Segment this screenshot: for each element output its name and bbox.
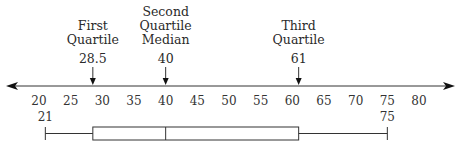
down-arrow-icon	[163, 78, 169, 85]
annotation-label-line: Third	[281, 18, 315, 33]
axis-tick-label: 70	[348, 94, 363, 108]
annotation-median: SecondQuartileMedian40	[140, 4, 192, 85]
axis-tick-label: 65	[316, 94, 331, 108]
axis-tick-label: 45	[190, 94, 205, 108]
axis-tick-labels: 20253035404550556065707580	[31, 94, 426, 108]
axis-tick-label: 25	[63, 94, 78, 108]
annotation-value-label: 40	[158, 51, 174, 66]
annotation-value-label: 61	[291, 51, 307, 66]
down-arrow-icon	[90, 78, 96, 85]
annotation-label-line: First	[78, 18, 108, 33]
number-line-axis	[6, 82, 455, 90]
axis-tick-label: 35	[126, 94, 141, 108]
axis-tick-label: 55	[253, 94, 268, 108]
down-arrow-icon	[296, 78, 302, 85]
box-plot-chart: 20253035404550556065707580 FirstQuartile…	[0, 0, 460, 146]
axis-tick-label: 40	[158, 94, 173, 108]
axis-tick-label: 80	[411, 94, 426, 108]
axis-tick-label: 75	[380, 94, 395, 108]
axis-tick-label: 20	[31, 94, 46, 108]
annotation-label-line: Quartile	[273, 32, 325, 47]
annotation-q3: ThirdQuartile61	[273, 18, 325, 85]
annotation-value-label: 28.5	[79, 51, 107, 66]
annotation-label-line: Quartile	[140, 18, 192, 33]
annotation-label-line: Quartile	[67, 32, 119, 47]
axis-tick-label: 50	[221, 94, 236, 108]
box-and-whisker: 2175	[38, 110, 395, 140]
axis-tick-label: 30	[95, 94, 110, 108]
iqr-box	[93, 127, 299, 140]
annotation-label-line: Median	[142, 32, 190, 47]
annotation-q1: FirstQuartile28.5	[67, 18, 119, 85]
quartile-annotations: FirstQuartile28.5SecondQuartileMedian40T…	[67, 4, 325, 85]
whisker-min-label: 21	[38, 110, 53, 124]
whisker-max-label: 75	[380, 110, 395, 124]
annotation-label-line: Second	[142, 4, 189, 19]
axis-tick-label: 60	[285, 94, 300, 108]
